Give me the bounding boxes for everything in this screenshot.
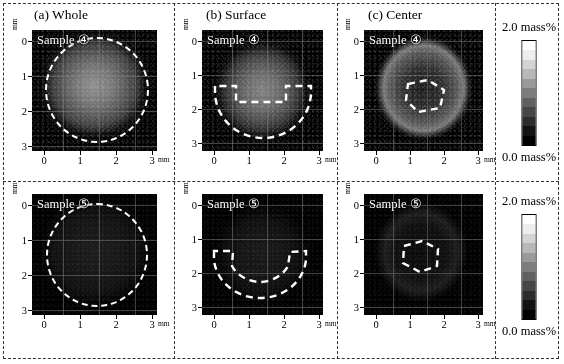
map-image-c1: Sample ④ bbox=[364, 30, 483, 151]
x-tick-label: 2 bbox=[113, 315, 118, 330]
sample-label-a2: Sample ⑤ bbox=[37, 196, 90, 212]
x-tick-label: 0 bbox=[41, 315, 46, 330]
x-tick-label: 3 bbox=[316, 315, 321, 330]
y-tick-label: 0 bbox=[192, 36, 202, 47]
x-tick-label: 0 bbox=[41, 151, 46, 166]
sample-label-b2: Sample ⑤ bbox=[207, 196, 260, 212]
panel-c-row1: (c) Center mm Sample ④ 0 1 2 3 bbox=[342, 8, 494, 176]
x-tick-label: 0 bbox=[211, 315, 216, 330]
y-tick-label: 0 bbox=[354, 36, 364, 47]
colorbar-row2: 2.0 mass% 0.0 mass% bbox=[498, 190, 560, 350]
x-tick-label: 2 bbox=[441, 151, 446, 166]
gridline-h bbox=[32, 240, 157, 241]
colorbar-scale-row1 bbox=[522, 40, 537, 146]
x-tick-label: 1 bbox=[246, 315, 251, 330]
y-tick-label: 3 bbox=[22, 305, 32, 316]
gridline-v bbox=[63, 194, 64, 315]
gridline-v bbox=[99, 194, 100, 315]
plot-area-c2: Sample ⑤ 0 1 2 3 0 1 2 3 bbox=[364, 194, 483, 315]
sample-label-b1: Sample ④ bbox=[207, 32, 260, 48]
sample-label-c2: Sample ⑤ bbox=[369, 196, 422, 212]
y-tick-label: 0 bbox=[192, 200, 202, 211]
x-axis-unit-b2: mm bbox=[325, 319, 337, 328]
x-tick-label: 2 bbox=[441, 315, 446, 330]
panel-title-b: (b) Surface bbox=[206, 7, 266, 23]
colorbar-max-label-row2: 2.0 mass% bbox=[502, 194, 556, 209]
y-tick-label: 3 bbox=[192, 302, 202, 313]
y-axis-unit-b1: mm bbox=[181, 18, 190, 30]
x-tick-label: 3 bbox=[149, 151, 154, 166]
y-tick-label: 1 bbox=[354, 234, 364, 245]
x-tick-label: 1 bbox=[407, 151, 412, 166]
row-separator bbox=[3, 181, 559, 182]
annotation-outline-b2 bbox=[202, 194, 323, 315]
y-tick-label: 1 bbox=[22, 71, 32, 82]
figure-root: (a) Whole mm Sample ④ 0 1 2 3 0 1 2 bbox=[0, 0, 564, 364]
y-tick-label: 0 bbox=[22, 200, 32, 211]
colorbar-row1: 2.0 mass% 0.0 mass% bbox=[498, 14, 560, 174]
panel-b-row1: (b) Surface mm Sample ④ 0 1 2 3 bbox=[180, 8, 335, 176]
y-tick-label: 1 bbox=[22, 235, 32, 246]
gridline-h bbox=[32, 310, 157, 311]
colorbar-min-label-row1: 0.0 mass% bbox=[502, 150, 556, 165]
panel-title-a: (a) Whole bbox=[34, 7, 88, 23]
y-axis-unit-a1: mm bbox=[10, 18, 19, 30]
y-tick-label: 1 bbox=[192, 70, 202, 81]
annotation-outline-b1 bbox=[202, 30, 323, 151]
x-tick-label: 1 bbox=[77, 151, 82, 166]
x-tick-label: 2 bbox=[281, 315, 286, 330]
intensity-map-a2 bbox=[32, 194, 157, 315]
x-axis-unit-c2: mm bbox=[484, 319, 496, 328]
y-axis-unit-b2: mm bbox=[181, 182, 190, 194]
plot-area-b2: Sample ⑤ 0 1 2 3 0 1 2 3 bbox=[202, 194, 323, 315]
plot-area-a2: Sample ⑤ 0 1 2 3 0 1 2 3 bbox=[32, 194, 157, 315]
x-axis-unit-a1: mm bbox=[158, 155, 170, 164]
x-axis-unit-b1: mm bbox=[325, 155, 337, 164]
x-axis-unit-c1: mm bbox=[484, 155, 496, 164]
y-tick-label: 2 bbox=[192, 268, 202, 279]
x-tick-label: 3 bbox=[316, 151, 321, 166]
y-tick-label: 2 bbox=[192, 104, 202, 115]
x-tick-label: 3 bbox=[475, 151, 480, 166]
gridline-v bbox=[135, 194, 136, 315]
y-tick-label: 3 bbox=[354, 302, 364, 313]
panel-b-row2: mm Sample ⑤ 0 1 2 3 0 1 bbox=[180, 186, 335, 356]
x-tick-label: 3 bbox=[149, 315, 154, 330]
x-tick-label: 0 bbox=[211, 151, 216, 166]
x-axis-unit-a2: mm bbox=[158, 319, 170, 328]
plot-area-c1: Sample ④ 0 1 2 3 0 1 2 3 bbox=[364, 30, 483, 151]
x-tick-label: 3 bbox=[475, 315, 480, 330]
sample-label-c1: Sample ④ bbox=[369, 32, 422, 48]
x-tick-label: 2 bbox=[281, 151, 286, 166]
y-tick-label: 1 bbox=[192, 234, 202, 245]
map-image-b2: Sample ⑤ bbox=[202, 194, 323, 315]
plot-area-a1: Sample ④ 0 1 2 3 0 1 2 3 bbox=[32, 30, 157, 151]
y-tick-label: 0 bbox=[22, 36, 32, 47]
x-tick-label: 1 bbox=[407, 315, 412, 330]
annotation-outline-c1 bbox=[364, 30, 483, 151]
x-tick-label: 1 bbox=[246, 151, 251, 166]
panel-title-c: (c) Center bbox=[368, 7, 422, 23]
plot-area-b1: Sample ④ 0 1 2 3 0 1 2 3 bbox=[202, 30, 323, 151]
x-tick-label: 0 bbox=[373, 315, 378, 330]
gridline-h bbox=[32, 275, 157, 276]
panel-a-row1: (a) Whole mm Sample ④ 0 1 2 3 0 1 2 bbox=[8, 8, 168, 176]
map-image-a1: Sample ④ bbox=[32, 30, 157, 151]
y-tick-label: 2 bbox=[354, 268, 364, 279]
gridline-v bbox=[99, 30, 100, 151]
gridline-v bbox=[135, 30, 136, 151]
y-axis-unit-a2: mm bbox=[10, 182, 19, 194]
colorbar-min-label-row2: 0.0 mass% bbox=[502, 324, 556, 339]
y-axis-unit-c1: mm bbox=[343, 18, 352, 30]
y-tick-label: 3 bbox=[192, 138, 202, 149]
gridline-h bbox=[32, 76, 157, 77]
y-tick-label: 2 bbox=[354, 104, 364, 115]
y-tick-label: 1 bbox=[354, 70, 364, 81]
map-image-b1: Sample ④ bbox=[202, 30, 323, 151]
panel-c-row2: mm Sample ⑤ 0 1 2 3 0 1 bbox=[342, 186, 494, 356]
y-tick-label: 2 bbox=[22, 106, 32, 117]
colorbar-max-label-row1: 2.0 mass% bbox=[502, 20, 556, 35]
y-tick-label: 3 bbox=[22, 141, 32, 152]
x-tick-label: 2 bbox=[113, 151, 118, 166]
gridline-h bbox=[32, 146, 157, 147]
